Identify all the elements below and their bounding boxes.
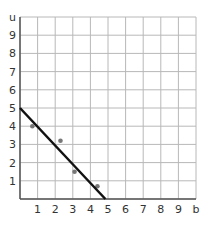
scatter-plot: 123456789 123456789 b u (0, 0, 212, 227)
x-tick-label: 7 (140, 203, 147, 216)
x-tick-label: 2 (52, 203, 59, 216)
grid (20, 17, 196, 199)
data-point (72, 169, 77, 174)
y-tick-label: 9 (9, 29, 16, 42)
y-tick-label: 2 (9, 157, 16, 170)
x-tick-label: 1 (34, 203, 41, 216)
y-tick-label: 7 (9, 66, 16, 79)
x-tick-labels: 123456789 (34, 203, 182, 216)
x-tick-label: 5 (105, 203, 112, 216)
x-axis-label: b (193, 203, 200, 216)
data-series (20, 108, 105, 199)
y-tick-labels: 123456789 (9, 29, 16, 188)
x-tick-label: 6 (122, 203, 129, 216)
y-tick-label: 3 (9, 138, 16, 151)
y-tick-label: 4 (9, 120, 16, 133)
fit-line (20, 108, 105, 199)
y-axis-label: u (9, 11, 16, 24)
y-tick-label: 5 (9, 102, 16, 115)
x-tick-label: 3 (69, 203, 76, 216)
data-point (58, 138, 63, 143)
y-tick-label: 8 (9, 47, 16, 60)
x-tick-label: 9 (175, 203, 182, 216)
y-tick-label: 1 (9, 175, 16, 188)
x-tick-label: 8 (157, 203, 164, 216)
y-tick-label: 6 (9, 84, 16, 97)
x-tick-label: 4 (87, 203, 94, 216)
